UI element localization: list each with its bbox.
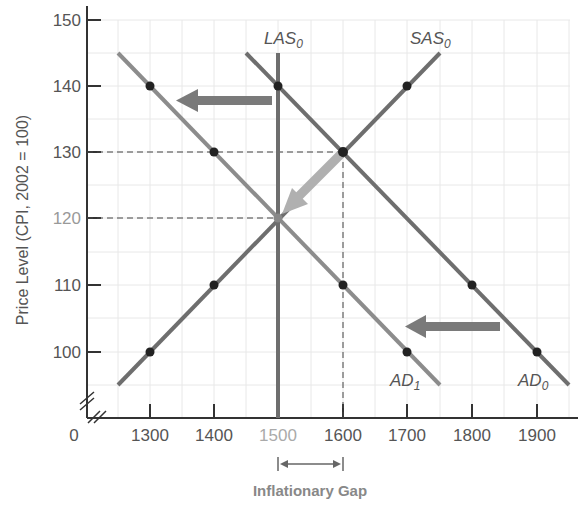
chart: 150 140 130 120 110 100 0 1300 1400 1500… [0, 0, 587, 512]
grid [88, 20, 570, 418]
new-equilibrium-point [274, 214, 283, 223]
ad-shift-arrow-top-head [176, 89, 198, 112]
y-tick-100: 100 [53, 343, 81, 362]
axes [80, 6, 578, 423]
ad-shift-arrow-top-shaft [196, 96, 272, 105]
y-tick-140: 140 [53, 77, 81, 96]
x-tick-0: 0 [69, 426, 78, 445]
y-tick-120: 120 [53, 209, 81, 228]
inflationary-gap-bracket [278, 457, 343, 471]
x-tick-1800: 1800 [453, 426, 491, 445]
x-tick-1900: 1900 [518, 426, 556, 445]
x-tick-1600: 1600 [324, 426, 362, 445]
x-tick-1700: 1700 [388, 426, 426, 445]
y-tick-110: 110 [54, 276, 81, 295]
x-tick-1500: 1500 [259, 426, 297, 445]
x-tick-labels: 0 1300 1400 1500 1600 1700 1800 1900 [69, 426, 556, 445]
x-tick-1300: 1300 [131, 426, 169, 445]
equilibrium-shift-arrow-shaft [296, 155, 340, 199]
shift-arrows [176, 89, 500, 338]
las0-label: LAS0 [264, 29, 303, 51]
y-tick-150: 150 [53, 11, 81, 30]
y-tick-130: 130 [53, 143, 81, 162]
ad1-label: AD1 [389, 371, 420, 393]
y-tick-labels: 150 140 130 120 110 100 [53, 11, 81, 362]
y-axis-label: Price Level (CPI, 2002 = 100) [14, 115, 31, 325]
ad0-label: AD0 [517, 371, 549, 393]
sas0-label: SAS0 [410, 29, 451, 51]
inflationary-gap-label: Inflationary Gap [253, 482, 367, 499]
x-tick-1400: 1400 [195, 426, 233, 445]
ad-shift-arrow-bottom-shaft [424, 322, 500, 331]
